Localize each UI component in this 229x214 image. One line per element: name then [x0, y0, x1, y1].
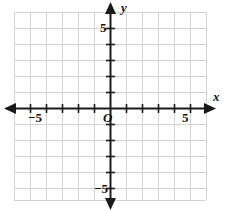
coordinate-plane-figure: y x 5 −5 −5 5 O [0, 0, 229, 214]
figure-background [0, 0, 229, 214]
x-tick-label-positive-5: 5 [182, 111, 189, 124]
origin-label: O [103, 111, 112, 124]
y-tick-label-negative-5: −5 [94, 182, 108, 195]
x-axis-label: x [213, 90, 220, 103]
y-tick-label-positive-5: 5 [100, 21, 107, 34]
y-axis-label: y [121, 1, 127, 14]
coordinate-grid-svg [0, 0, 229, 214]
x-tick-label-negative-5: −5 [28, 111, 42, 124]
